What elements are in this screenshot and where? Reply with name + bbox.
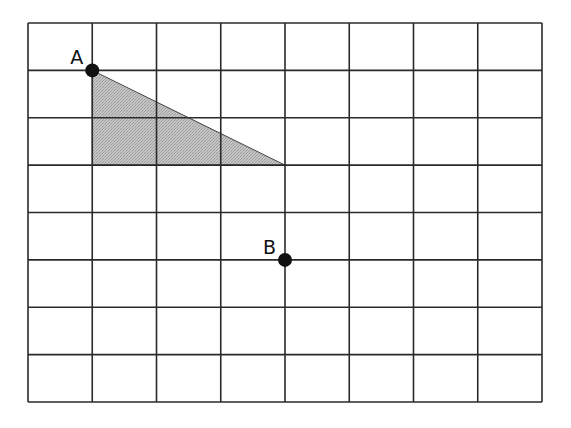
point-label: A [70, 46, 83, 68]
point-a: A [70, 46, 99, 77]
grid-diagram: AB [0, 0, 571, 428]
point-b: B [263, 236, 292, 267]
point-label: B [263, 236, 276, 258]
point-dot [85, 63, 99, 77]
point-dot [278, 253, 292, 267]
